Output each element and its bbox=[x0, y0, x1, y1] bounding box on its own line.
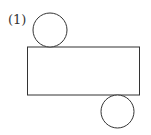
net-top-circle bbox=[33, 13, 67, 47]
net-rectangle bbox=[28, 47, 140, 95]
net-bottom-circle bbox=[101, 95, 134, 128]
cylinder-net-diagram bbox=[0, 0, 151, 135]
